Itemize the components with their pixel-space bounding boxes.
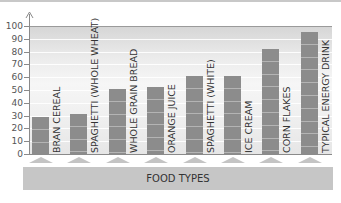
x-axis-line: [29, 154, 332, 155]
bar: [147, 87, 164, 154]
bar: [224, 76, 241, 154]
x-axis-title-box: FOOD TYPES: [23, 167, 333, 190]
y-tick-label: 80: [0, 47, 23, 57]
y-tick-label: 10: [0, 136, 23, 146]
y-tick-label: 20: [0, 123, 23, 133]
pointer-triangle-icon: [144, 157, 168, 163]
y-axis-line: [29, 14, 30, 155]
top-border-line: [0, 0, 341, 2]
bar: [262, 49, 279, 154]
bar-label: SPAGHETTI (WHOLE WHEAT): [89, 23, 101, 153]
bar-label: CORN FLAKES: [281, 23, 293, 153]
bar: [70, 114, 87, 154]
y-tick-label: 70: [0, 59, 23, 69]
pointer-triangle-icon: [259, 157, 283, 163]
bar: [301, 32, 318, 154]
bar-label: WHOLE GRAIN BREAD: [128, 23, 140, 153]
x-axis-title: FOOD TYPES: [146, 173, 209, 184]
bar-label: ORANGE JUICE: [166, 23, 178, 153]
y-tick-label: 90: [0, 34, 23, 44]
bar-label: SPAGHETTI (WHITE): [205, 23, 217, 153]
y-tick-label: 0: [0, 149, 23, 159]
pointer-triangle-icon: [67, 157, 91, 163]
bar-label: BRAN CEREAL: [51, 23, 63, 153]
bar: [186, 76, 203, 154]
y-tick-label: 30: [0, 111, 23, 121]
y-tick-label: 50: [0, 85, 23, 95]
bar: [32, 117, 49, 154]
bar: [109, 89, 126, 154]
y-tick-label: 100: [0, 21, 23, 31]
y-axis-arrow-icon: [25, 11, 34, 20]
pointer-triangle-icon: [29, 157, 53, 163]
pointer-triangle-icon: [106, 157, 130, 163]
pointer-triangle-icon: [221, 157, 245, 163]
pointer-triangle-icon: [183, 157, 207, 163]
pointer-triangle-icon: [298, 157, 322, 163]
bar-label: TYPICAL ENERGY DRINK: [320, 23, 332, 153]
y-tick-label: 60: [0, 72, 23, 82]
bar-label: ICE CREAM: [243, 23, 255, 153]
y-tick-label: 40: [0, 98, 23, 108]
